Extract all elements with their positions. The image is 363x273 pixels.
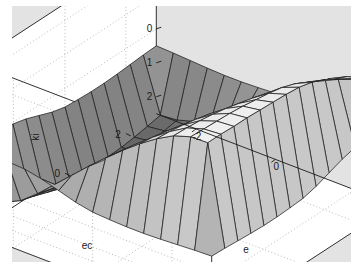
figure-panel: 210-1-220-2-202 kiece [12,6,351,262]
z-tick-label: 1 [147,57,153,68]
surface-plot: 210-1-220-2-202 kiece [12,6,351,262]
ec-axis-label: ec [82,240,93,251]
e-axis-label: e [243,244,249,255]
z-tick-label: 0 [147,23,153,34]
ec-tick-label: 0 [54,168,60,179]
e-tick-label: 0 [274,161,280,172]
e-tick-label: -2 [193,131,202,142]
z-axis-label: ki [30,133,41,140]
z-tick-label: 2 [147,91,153,102]
ec-tick-label: 2 [115,129,121,140]
